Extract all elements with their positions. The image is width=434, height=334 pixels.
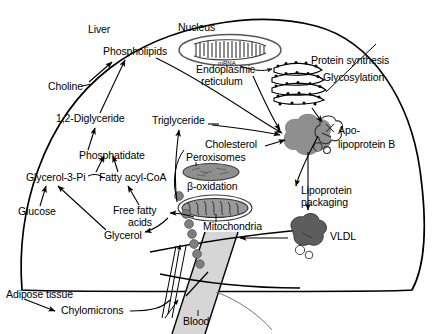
label-lipoprotein-packaging-line1: Lipoprotein (301, 185, 352, 197)
arrow-choline-phospholipids (89, 62, 112, 82)
arrow-glucose-glycerol3pi (40, 186, 46, 206)
label-apolipoprotein-line1: Apo- (338, 125, 360, 137)
label-blood: Blood (183, 316, 209, 328)
label-protein-synthesis: Protein synthesis (311, 55, 389, 67)
label-choline: Choline (48, 81, 83, 93)
arrow-adipose-chylomicrons (24, 299, 55, 311)
label-adipose-tissue: Adipose tissue (6, 289, 73, 301)
label-triglyceride: Triglyceride (152, 115, 205, 127)
label-diglyceride: 1,2-Diglyceride (56, 113, 125, 125)
arrow-er-droplet (253, 76, 280, 130)
arrow-glycerol-glycerol3pi (58, 186, 106, 230)
label-glycerol-3-pi: Glycerol-3-Pi (26, 172, 85, 184)
peroxisome (183, 164, 239, 181)
label-mitochondria: Mitochondria (203, 221, 262, 233)
chromatin-envelope (194, 40, 266, 46)
arrow-diglyceride-phospholipids (100, 60, 125, 113)
label-glucose: Glucose (18, 206, 56, 218)
label-cholesterol: Cholesterol (205, 139, 257, 151)
arrow-cholesterol-droplet (265, 140, 285, 146)
label-free-fatty-acids-line2: acids (128, 217, 152, 229)
diagram-canvas (0, 0, 434, 334)
label-vldl: VLDL (330, 231, 356, 243)
lipid-metabolism-diagram: Liver Nucleus mRNA Endoplasmic reticulum… (0, 0, 434, 334)
protein-synthesis-pointer (326, 44, 376, 92)
label-glycosylation: Glycosylation (323, 72, 384, 84)
vldl-particle (291, 213, 327, 258)
arrow-phosphatidate-diglyceride (88, 128, 95, 150)
label-beta-oxidation: β-oxidation (187, 181, 237, 193)
label-chylomicrons: Chylomicrons (61, 305, 123, 317)
label-phospholipids: Phospholipids (103, 46, 167, 58)
label-endoplasmic-reticulum-line1: Endoplasmic (196, 64, 255, 76)
label-endoplasmic-reticulum-line2: reticulum (201, 76, 243, 88)
label-nucleus: Nucleus (178, 22, 215, 34)
label-apolipoprotein-line2: lipoprotein B (338, 139, 395, 151)
label-phosphatidate: Phosphatidate (79, 150, 145, 162)
arrow-ffa-fattyacylcoa (128, 186, 139, 205)
vessel-cell-crossing-lower (160, 274, 300, 288)
label-fatty-acyl-coa: Fatty acyl-CoA (99, 172, 166, 184)
vessel-tail-curve (216, 292, 272, 330)
label-liver: Liver (88, 24, 110, 36)
label-free-fatty-acids-line1: Free fatty (113, 205, 156, 217)
chromatin-strands (196, 41, 264, 58)
arrow-triglyceride-droplet (212, 125, 280, 135)
label-glycerol: Glycerol (104, 230, 142, 242)
label-lipoprotein-packaging-line2: packaging (301, 197, 348, 209)
label-peroxisomes: Peroxisomes (186, 152, 246, 164)
